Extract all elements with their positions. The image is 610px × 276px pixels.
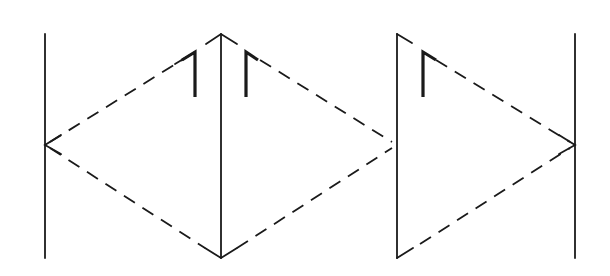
- third-line-top-tick: [397, 34, 412, 43]
- dashed-ray-middle-upper: [260, 60, 392, 142]
- ray-diagram: [0, 0, 610, 276]
- dashed-ray-middle-lower: [237, 148, 392, 248]
- dashed-ray-right-lower: [420, 148, 570, 244]
- right-apex-tick: [559, 135, 575, 154]
- image-mark-l-right: [423, 52, 436, 97]
- image-mark-l-middle: [246, 52, 258, 97]
- image-mark-reversed-l-diagonal: [175, 52, 195, 64]
- dashed-ray-left-lower: [50, 148, 205, 248]
- third-line-bottom-tick: [397, 248, 413, 258]
- left-apex-tick: [45, 135, 61, 154]
- dashed-ray-right-upper: [436, 60, 570, 142]
- dashed-ray-left-upper: [50, 55, 190, 142]
